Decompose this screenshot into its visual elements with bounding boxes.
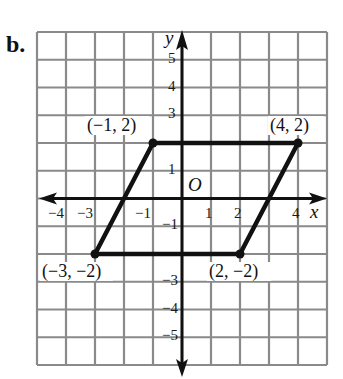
part-label: b.	[6, 31, 25, 57]
y-tick-label: −1	[162, 216, 178, 232]
vertex-point	[91, 250, 100, 259]
x-tick-label: −1	[135, 205, 151, 221]
y-tick-label: −3	[162, 272, 178, 288]
y-axis-label: y	[163, 27, 174, 48]
vertex-point	[149, 139, 158, 148]
vertex-point	[236, 250, 245, 259]
x-tick-label: −4	[48, 205, 64, 221]
x-tick-label: 1	[205, 205, 213, 221]
y-tick-label: 3	[168, 105, 176, 121]
y-tick-label: 4	[168, 78, 176, 94]
point-label: (−3, −2)	[42, 261, 101, 282]
point-label: (4, 2)	[270, 115, 309, 136]
y-tick-label: −4	[162, 300, 178, 316]
point-label: (2, −2)	[209, 261, 258, 282]
axes	[39, 30, 327, 377]
origin-label: O	[188, 174, 202, 195]
x-tick-label: 4	[292, 205, 300, 221]
coordinate-plane-figure: b. −4−3−11245431−1−3−4−5(−1, 2)(4, 2)(2,…	[0, 0, 343, 379]
point-label: (−1, 2)	[87, 115, 136, 136]
y-tick-label: 1	[168, 161, 176, 177]
y-tick-label: 5	[168, 50, 176, 66]
y-tick-label: −5	[162, 327, 178, 343]
x-tick-label: −3	[77, 205, 93, 221]
x-axis-label: x	[309, 201, 319, 222]
vertex-point	[294, 139, 303, 148]
x-tick-label: 2	[234, 205, 242, 221]
